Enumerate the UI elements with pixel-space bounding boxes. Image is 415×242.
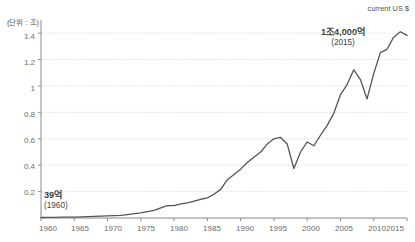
axis-lines	[41, 20, 407, 218]
gdp-line-chart: current US $ (단위 : 조) 1.4 1.2 1 0.8 0.6 …	[0, 0, 415, 242]
gridlines	[41, 33, 407, 191]
plot-area	[0, 0, 415, 242]
